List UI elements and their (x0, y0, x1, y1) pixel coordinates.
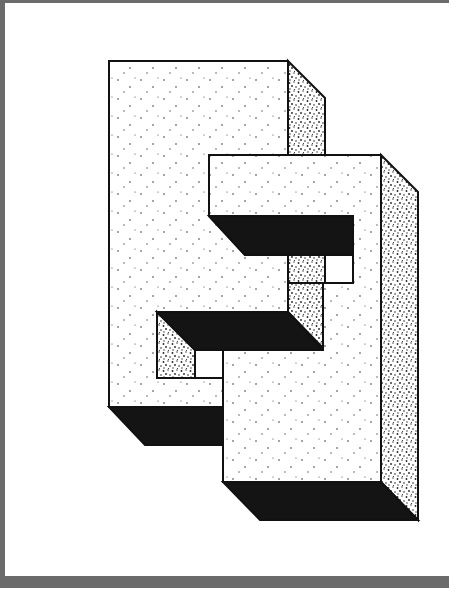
impossible-blocks-illustration (0, 0, 449, 598)
notch-gap (195, 350, 223, 378)
back-block-bottom-shadow (109, 407, 223, 445)
artwork-frame: Interlocking impossible blocks (0, 0, 449, 598)
front-block-side-face (381, 155, 418, 520)
front-notch-outline (325, 255, 353, 283)
back-block-strip-lower (288, 255, 325, 283)
back-block-side-face (288, 61, 325, 155)
